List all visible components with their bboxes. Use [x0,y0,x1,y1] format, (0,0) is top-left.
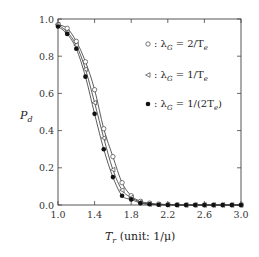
series-markers [56,22,244,207]
series-line-2 [58,26,241,205]
x-axis-label: Tr (unit: 1/μ) [105,230,175,245]
data-point-filled [211,203,216,208]
y-tick-label: 0.2 [39,162,54,173]
data-point-filled [83,74,88,79]
x-tick-label: 1.0 [50,209,65,220]
series-line-0 [58,25,241,205]
x-tick-label: 1.8 [124,209,139,220]
data-point-open-circle [92,87,96,91]
data-point-open-circle [102,127,106,131]
data-point-filled [138,201,143,206]
series-line-1 [58,25,241,205]
data-point-open-circle [111,154,115,158]
x-tick-label: 2.6 [197,209,212,220]
data-point-open-circle [120,180,124,184]
y-tick-label: 0.6 [39,88,54,99]
data-point-filled [120,193,125,198]
series-lines [58,25,241,205]
data-point-filled [129,197,134,202]
legend-triangle-icon [146,73,150,78]
y-axis-ticks: 0.00.20.40.60.81.0 [39,14,241,211]
y-axis-label: Pd [19,109,33,124]
data-point-triangle [120,188,124,193]
x-tick-label: 2.2 [160,209,175,220]
data-point-filled [56,24,61,29]
plot-frame [58,19,241,205]
data-point-filled [175,203,180,208]
legend-label: : λG = 1/Te [154,69,208,83]
legend-label: : λG = 1/(2Te) [154,98,222,112]
data-point-filled [92,112,97,117]
data-point-filled [156,203,161,208]
legend-label: : λG = 2/Te [154,38,208,52]
data-point-filled [193,203,198,208]
data-point-filled [101,147,106,152]
data-point-filled [147,202,152,207]
data-point-filled [74,46,79,51]
x-tick-label: 1.4 [87,209,102,220]
data-point-filled [111,175,116,180]
data-point-filled [184,203,189,208]
y-tick-label: 0.8 [39,51,54,62]
data-point-filled [239,203,244,208]
legend-filled-circle-icon [146,102,151,107]
data-point-filled [202,203,207,208]
data-point-open-circle [83,60,87,64]
data-point-filled [230,203,235,208]
data-point-filled [166,203,171,208]
y-tick-label: 1.0 [39,14,54,25]
data-point-filled [65,32,70,37]
data-point-filled [220,203,225,208]
chart: 0.00.20.40.60.81.0 1.01.41.82.22.63.0 Pd… [0,0,259,257]
y-tick-label: 0.4 [39,125,54,136]
x-tick-label: 3.0 [233,209,248,220]
legend-open-circle-icon [146,42,150,46]
legend: : λG = 2/Te: λG = 1/Te: λG = 1/(2Te) [146,38,222,112]
